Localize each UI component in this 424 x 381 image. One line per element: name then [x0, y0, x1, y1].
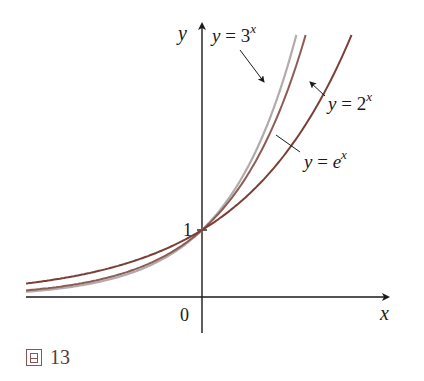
exponential-functions-plot: y x 0 1 y = 3x y = 2x y = ex [0, 0, 424, 340]
curve-e-pow-x [26, 35, 306, 290]
pointer-3-pow-x [240, 50, 264, 82]
figure-number: 13 [50, 346, 70, 369]
label-3-pow-x: y = 3x [210, 21, 256, 46]
figure-glyph-icon [26, 349, 42, 366]
y-axis-label: y [176, 22, 187, 45]
curve-3-pow-x [26, 35, 296, 292]
origin-label: 0 [180, 305, 189, 325]
tick-label-1: 1 [183, 220, 192, 240]
label-2-pow-x: y = 2x [326, 89, 372, 114]
label-e-pow-x: y = ex [302, 147, 347, 172]
curve-2-pow-x [26, 35, 352, 284]
x-axis-label: x [379, 302, 389, 324]
pointer-2-pow-x [310, 82, 325, 96]
figure-caption: 13 [26, 346, 70, 369]
